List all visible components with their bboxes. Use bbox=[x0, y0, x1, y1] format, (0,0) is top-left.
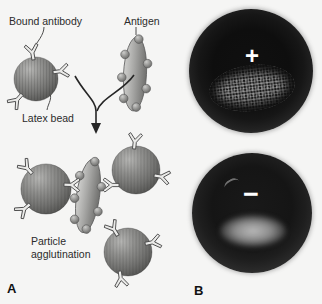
latex-bead-label: Latex bead bbox=[22, 112, 74, 125]
figure-latex-agglutination: Bound antibody Antigen Latex bead Partic… bbox=[0, 0, 322, 304]
arrowhead bbox=[91, 123, 101, 134]
reaction-arrow bbox=[75, 75, 134, 134]
agglutination-cluster bbox=[13, 132, 171, 287]
panel-a-letter: A bbox=[7, 281, 16, 296]
latex-bead-with-antibodies bbox=[6, 43, 70, 111]
plus-sign: + bbox=[239, 44, 265, 68]
antigen bbox=[116, 34, 154, 112]
antigen-label: Antigen bbox=[124, 15, 160, 28]
latex-bead bbox=[104, 228, 152, 276]
antigen bbox=[66, 155, 110, 236]
minus-sign: − bbox=[238, 181, 264, 208]
positive-well-photo: + bbox=[189, 9, 313, 133]
panel-b-letter: B bbox=[194, 283, 203, 298]
negative-well-photo: − bbox=[192, 153, 312, 273]
unagglutinated-suspension bbox=[220, 215, 286, 247]
bound-antibody-label: Bound antibody bbox=[9, 15, 82, 28]
particle-agglutination-label: Particle agglutination bbox=[31, 235, 97, 260]
